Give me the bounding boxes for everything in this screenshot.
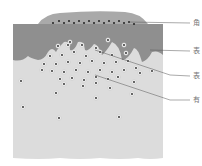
label-epidermis: 表	[193, 47, 200, 55]
label-stratum-corneum: 角	[193, 19, 200, 27]
label-upper-dermis: 表	[193, 72, 200, 80]
tissue-diagram	[0, 0, 202, 166]
label-dermis-cells: 有	[193, 96, 200, 104]
